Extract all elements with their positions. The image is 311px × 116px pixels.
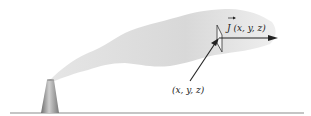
flux-args: (x, y, z) [233, 23, 265, 33]
flux-label: J (x, y, z) [227, 23, 266, 33]
plume-diagram [0, 0, 311, 116]
smokestack-top [47, 79, 54, 81]
point-label: (x, y, z) [172, 85, 204, 95]
flux-symbol: J [227, 23, 231, 33]
smokestack [41, 80, 59, 113]
smoke-plume [50, 9, 276, 82]
